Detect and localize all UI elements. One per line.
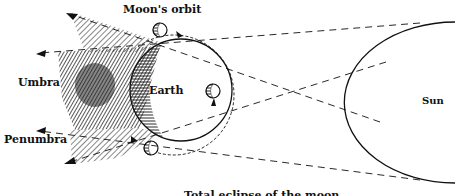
ray-arrow-4	[64, 157, 76, 164]
label-sun: Sun	[422, 95, 444, 106]
lunar-eclipse-diagram: Moon's orbit Umbra Earth Penumbra Sun To…	[0, 0, 464, 196]
label-umbra: Umbra	[18, 76, 60, 89]
label-moons-orbit: Moon's orbit	[123, 3, 202, 16]
orbit-arrow-right	[211, 98, 216, 106]
orbit-arrow-top	[176, 31, 183, 38]
penumbra-upper	[70, 12, 160, 52]
ray-arrow-1	[36, 50, 46, 57]
moon-right	[206, 84, 220, 98]
label-penumbra: Penumbra	[4, 133, 67, 146]
caption: Total eclipse of the moon	[184, 189, 339, 196]
label-earth: Earth	[149, 84, 183, 97]
moon-bottom	[144, 141, 158, 155]
moon-top	[153, 23, 167, 37]
